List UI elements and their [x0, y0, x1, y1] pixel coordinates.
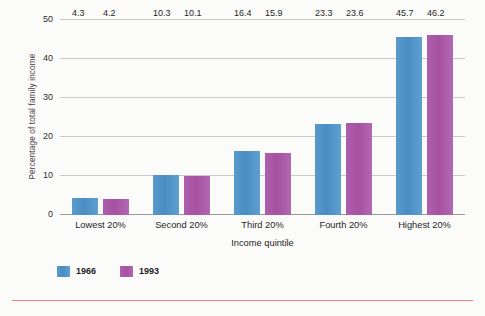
legend-item-1993[interactable]: 1993	[120, 266, 159, 277]
bar-column: 23.3	[315, 20, 341, 215]
y-axis-tick-label: 0	[7, 210, 53, 219]
y-axis-tick-label: 50	[7, 15, 53, 24]
bar-1993-fourth-20[interactable]: 23.6	[346, 123, 372, 215]
x-axis-tick-label: Highest 20%	[398, 220, 451, 230]
x-axis-tick-label: Fourth 20%	[319, 220, 367, 230]
bar-value-label: 10.1	[184, 9, 202, 18]
x-axis-tick-label: Lowest 20%	[75, 220, 126, 230]
bar-value-label: 15.9	[265, 9, 283, 18]
bar-value-label: 46.2	[427, 9, 445, 18]
bar-group: 10.310.1Second 20%	[141, 20, 222, 215]
bar-1993-highest-20[interactable]: 46.2	[427, 35, 453, 215]
bar-1966-third-20[interactable]: 16.4	[234, 151, 260, 215]
bar-column: 10.1	[184, 20, 210, 215]
bar-column: 46.2	[427, 20, 453, 215]
bar-pair: 10.310.1	[141, 20, 222, 215]
bar-1993-lowest-20[interactable]: 4.2	[103, 199, 129, 215]
bar-pair: 45.746.2	[384, 20, 465, 215]
bar-value-label: 10.3	[153, 9, 171, 18]
bar-1966-highest-20[interactable]: 45.7	[396, 37, 422, 215]
x-axis-tick-label: Second 20%	[155, 220, 208, 230]
legend-label: 1966	[76, 267, 96, 276]
bar-group: 23.323.6Fourth 20%	[303, 20, 384, 215]
y-axis-tick-label: 20	[7, 132, 53, 141]
bottom-divider-rule	[12, 300, 473, 301]
bar-column: 15.9	[265, 20, 291, 215]
bar-value-label: 4.2	[103, 9, 116, 18]
bar-group: 16.415.9Third 20%	[222, 20, 303, 215]
bar-1966-fourth-20[interactable]: 23.3	[315, 124, 341, 215]
bar-column: 45.7	[396, 20, 422, 215]
bar-column: 16.4	[234, 20, 260, 215]
bar-chart-figure: Percentage of total family income 010203…	[0, 0, 485, 316]
bar-value-label: 23.6	[346, 9, 364, 18]
y-axis-tick-label: 30	[7, 93, 53, 102]
bar-column: 4.3	[72, 20, 98, 215]
bar-pair: 4.34.2	[60, 20, 141, 215]
bar-pair: 23.323.6	[303, 20, 384, 215]
x-axis-tick-label: Third 20%	[241, 220, 283, 230]
bar-column: 4.2	[103, 20, 129, 215]
bar-value-label: 23.3	[315, 9, 333, 18]
y-axis-tick-label: 10	[7, 171, 53, 180]
bar-column: 23.6	[346, 20, 372, 215]
bar-value-label: 45.7	[396, 9, 414, 18]
bar-pair: 16.415.9	[222, 20, 303, 215]
plot-area: 01020304050 4.34.2Lowest 20%10.310.1Seco…	[60, 20, 465, 215]
legend-swatch-icon	[120, 266, 133, 277]
bar-1993-second-20[interactable]: 10.1	[184, 176, 210, 215]
x-axis-title: Income quintile	[60, 238, 465, 248]
y-axis-title: Percentage of total family income	[28, 17, 37, 217]
bar-1966-second-20[interactable]: 10.3	[153, 175, 179, 215]
chart-legend: 19661993	[57, 266, 159, 277]
bar-group: 4.34.2Lowest 20%	[60, 20, 141, 215]
bar-1966-lowest-20[interactable]: 4.3	[72, 198, 98, 215]
y-axis-tick-label: 40	[7, 54, 53, 63]
bar-column: 10.3	[153, 20, 179, 215]
bar-group: 45.746.2Highest 20%	[384, 20, 465, 215]
legend-swatch-icon	[57, 266, 70, 277]
bar-value-label: 16.4	[234, 9, 252, 18]
bar-1993-third-20[interactable]: 15.9	[265, 153, 291, 215]
legend-label: 1993	[139, 267, 159, 276]
bar-value-label: 4.3	[72, 9, 85, 18]
legend-item-1966[interactable]: 1966	[57, 266, 96, 277]
